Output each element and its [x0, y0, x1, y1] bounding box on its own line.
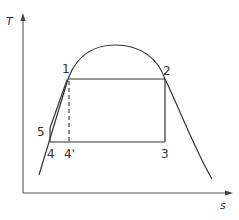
label-point-2: 2: [163, 64, 171, 78]
cycle: [50, 79, 165, 142]
s-axis-arrow-icon: [225, 191, 233, 196]
ts-diagram: T s 1 2 3 4 4' 5: [0, 0, 239, 220]
label-point-4prime: 4': [64, 147, 75, 161]
label-point-3: 3: [161, 147, 169, 161]
axes: T s: [6, 13, 233, 212]
label-point-1: 1: [62, 62, 70, 76]
point-labels: 1 2 3 4 4' 5: [37, 62, 171, 161]
t-axis-arrow-icon: [21, 13, 26, 21]
label-point-5: 5: [37, 125, 45, 139]
t-axis-label: T: [6, 15, 14, 28]
s-axis-label: s: [220, 199, 226, 212]
label-point-4: 4: [47, 147, 55, 161]
edge-5-1: [50, 80, 67, 128]
